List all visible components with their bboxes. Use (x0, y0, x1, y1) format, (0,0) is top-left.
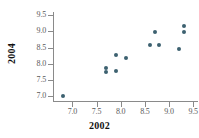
data-point (153, 30, 157, 34)
data-point (124, 56, 128, 60)
x-axis-tick-label: 7.0 (61, 108, 83, 116)
data-point (182, 24, 186, 28)
y-axis-tick-label: 7.5 (24, 76, 46, 84)
data-point (104, 70, 108, 74)
x-axis-tick-label: 8.0 (110, 108, 132, 116)
x-axis-title: 2002 (0, 120, 199, 131)
data-point (182, 30, 186, 34)
y-axis-tick-label: 8.5 (24, 44, 46, 52)
data-point (61, 94, 65, 98)
y-axis-tick-label: 9.0 (24, 27, 46, 35)
x-axis-tick-label: 9.0 (158, 108, 180, 116)
y-axis-tick-label: 8.0 (24, 60, 46, 68)
x-axis-tick-label: 8.5 (134, 108, 156, 116)
x-axis-line (53, 101, 198, 102)
data-point (114, 69, 118, 73)
scatter-plot-figure: 7.07.58.08.59.09.5 7.07.58.08.59.09.5 20… (0, 0, 199, 138)
y-axis-tick-label: 7.0 (24, 92, 46, 100)
y-axis-tick-label: 9.5 (24, 11, 46, 19)
data-point (177, 47, 181, 51)
x-axis-tick-label: 7.5 (86, 108, 108, 116)
y-axis-title: 2004 (6, 34, 17, 74)
x-axis-tick-label: 9.5 (182, 108, 199, 116)
data-point (114, 53, 118, 57)
